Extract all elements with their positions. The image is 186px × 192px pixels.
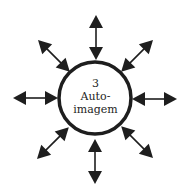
arrow-down-left-icon bbox=[32, 122, 74, 164]
arrow-left-icon bbox=[13, 91, 58, 105]
arrow-up-right-icon bbox=[116, 35, 158, 77]
center-node-number: 3 bbox=[60, 77, 131, 90]
arrow-down-right-icon bbox=[116, 121, 158, 163]
arrow-down-icon bbox=[88, 139, 102, 184]
arrow-up-left-icon bbox=[33, 35, 75, 77]
center-node-label: 3 Auto- imagem bbox=[60, 77, 131, 116]
center-node-label-line2: imagem bbox=[60, 103, 131, 116]
arrow-up-icon bbox=[89, 15, 103, 60]
arrow-right-icon bbox=[132, 92, 177, 106]
center-node-label-line1: Auto- bbox=[60, 90, 131, 103]
